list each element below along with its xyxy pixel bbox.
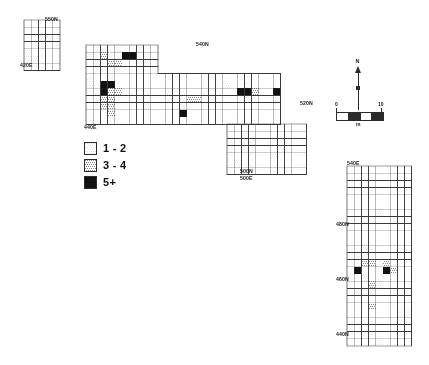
- grid-block-southeast: [346, 165, 413, 347]
- scale-bar-tick-start: [336, 108, 337, 112]
- legend-label-1-2: 1 - 2: [103, 143, 127, 154]
- scale-bar-end-label: 10: [378, 101, 384, 107]
- coordinate-label-se-block-480: 480N: [336, 221, 349, 227]
- scale-bar-segment: [337, 113, 349, 120]
- scale-bar: 0 10 m: [336, 112, 384, 121]
- north-arrow-icon: N: [352, 62, 366, 110]
- legend-item: 1 - 2: [84, 141, 127, 156]
- coordinate-label-south-ext-bot-1: 500N: [240, 168, 253, 174]
- coordinate-label-main-block-top: 540N: [196, 41, 209, 47]
- scale-bar-start-label: 0: [335, 101, 338, 107]
- grid-block-main: [85, 44, 282, 126]
- coordinate-label-se-block-top: 540E: [347, 160, 360, 166]
- scale-bar-segment: [349, 113, 361, 120]
- grid-block-south-extension: [226, 123, 308, 176]
- scale-bar-unit-label: m: [356, 121, 360, 127]
- legend-swatch-3-4: [84, 159, 97, 172]
- scale-bar-body: [336, 112, 384, 121]
- legend-swatch-1-2: [84, 142, 97, 155]
- legend-item: 3 - 4: [84, 158, 127, 173]
- north-arrow-shaft: [358, 70, 359, 110]
- scale-bar-tick-end: [381, 108, 382, 112]
- legend-item: 5+: [84, 175, 127, 190]
- coordinate-label-se-block-440: 440N: [336, 331, 349, 337]
- coordinate-label-main-block-left: 440E: [84, 124, 97, 130]
- legend-swatch-5-plus: [84, 176, 97, 189]
- north-arrow-midpoint: [356, 86, 360, 90]
- legend: 1 - 2 3 - 4 5+: [84, 141, 127, 192]
- coordinate-label-nw-block-top: 550N: [45, 16, 58, 22]
- coordinate-label-nw-block-bottom: 420E: [20, 62, 33, 68]
- site-plan-figure: 550N420E540N440E520N500N500E540E480N460N…: [0, 0, 429, 365]
- coordinate-label-se-block-460: 460N: [336, 276, 349, 282]
- north-arrow-label: N: [356, 58, 360, 64]
- coordinate-label-south-ext-bot-2: 500E: [240, 175, 253, 181]
- legend-label-5-plus: 5+: [103, 177, 116, 188]
- coordinate-label-east-block-right: 520N: [300, 100, 313, 106]
- legend-label-3-4: 3 - 4: [103, 160, 127, 171]
- scale-bar-segment: [372, 113, 383, 120]
- scale-bar-segment: [361, 113, 373, 120]
